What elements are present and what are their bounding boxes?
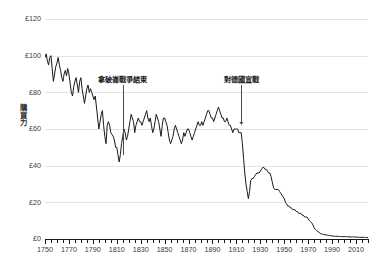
x-tick-label-1990: 1990 xyxy=(324,246,340,253)
x-tick-1965 xyxy=(302,239,303,243)
x-tick-1855 xyxy=(171,239,172,243)
x-tick-1890 xyxy=(212,239,213,244)
x-tick-1790 xyxy=(93,239,94,244)
x-tick-2005 xyxy=(350,239,351,243)
x-tick-label-1890: 1890 xyxy=(204,246,220,253)
x-tick-1875 xyxy=(195,239,196,243)
y-tick-label-0: £0 xyxy=(33,235,41,242)
x-tick-1880 xyxy=(201,239,202,243)
y-axis-title: 購買力 xyxy=(17,104,30,127)
x-tick-1810 xyxy=(117,239,118,244)
x-tick-1960 xyxy=(296,239,297,243)
y-tick-label-20: £20 xyxy=(29,199,41,206)
x-tick-1795 xyxy=(99,239,100,243)
x-tick-1885 xyxy=(207,239,208,243)
x-tick-1820 xyxy=(129,239,130,243)
chart-root: £120£100£80£60£40£20£0 購買力 1750177017901… xyxy=(0,0,382,273)
x-tick-1915 xyxy=(242,239,243,243)
x-tick-label-1930: 1930 xyxy=(252,246,268,253)
x-tick-label-1770: 1770 xyxy=(61,246,77,253)
x-tick-1835 xyxy=(147,239,148,243)
series-line-purchasing-power xyxy=(45,19,368,239)
annotation-arrowhead-1 xyxy=(240,122,244,125)
x-tick-1985 xyxy=(326,239,327,243)
x-tick-1815 xyxy=(123,239,124,243)
annotation-line-0 xyxy=(123,85,124,155)
x-tick-1980 xyxy=(320,239,321,243)
x-tick-1975 xyxy=(314,239,315,243)
x-tick-1850 xyxy=(165,239,166,244)
x-tick-1910 xyxy=(236,239,237,244)
x-tick-label-1850: 1850 xyxy=(157,246,173,253)
y-tick-label-40: £40 xyxy=(29,162,41,169)
x-tick-1920 xyxy=(248,239,249,243)
x-tick-1785 xyxy=(87,239,88,243)
annotation-label-0: 拿破崙戰爭結束 xyxy=(98,76,147,83)
x-tick-2020 xyxy=(368,239,369,243)
annotation-label-1: 對德國宣戰 xyxy=(224,76,259,83)
x-tick-label-1970: 1970 xyxy=(300,246,316,253)
x-tick-1935 xyxy=(266,239,267,243)
x-tick-1990 xyxy=(332,239,333,244)
x-tick-label-1870: 1870 xyxy=(181,246,197,253)
y-tick-label-80: £80 xyxy=(29,89,41,96)
x-tick-1865 xyxy=(183,239,184,243)
x-tick-label-1910: 1910 xyxy=(228,246,244,253)
y-tick-label-60: £60 xyxy=(29,125,41,132)
x-tick-2010 xyxy=(356,239,357,244)
x-tick-1860 xyxy=(177,239,178,243)
x-tick-1805 xyxy=(111,239,112,243)
x-tick-1995 xyxy=(338,239,339,243)
x-tick-2000 xyxy=(344,239,345,243)
x-tick-1945 xyxy=(278,239,279,243)
x-tick-1755 xyxy=(51,239,52,243)
x-tick-1930 xyxy=(260,239,261,244)
x-tick-1775 xyxy=(75,239,76,243)
x-tick-1925 xyxy=(254,239,255,243)
x-tick-1845 xyxy=(159,239,160,243)
x-tick-1830 xyxy=(141,239,142,244)
x-tick-1765 xyxy=(63,239,64,243)
x-tick-label-1810: 1810 xyxy=(109,246,125,253)
annotation-line-1 xyxy=(241,85,242,122)
x-tick-1750 xyxy=(45,239,46,244)
x-tick-1895 xyxy=(218,239,219,243)
x-tick-1940 xyxy=(272,239,273,243)
x-tick-label-1950: 1950 xyxy=(276,246,292,253)
x-tick-1840 xyxy=(153,239,154,243)
x-tick-1970 xyxy=(308,239,309,244)
x-tick-label-1830: 1830 xyxy=(133,246,149,253)
x-tick-1870 xyxy=(189,239,190,244)
x-tick-1905 xyxy=(230,239,231,243)
y-tick-label-100: £100 xyxy=(25,52,41,59)
y-tick-label-120: £120 xyxy=(25,15,41,22)
x-tick-1800 xyxy=(105,239,106,243)
x-tick-label-2010: 2010 xyxy=(348,246,364,253)
x-tick-label-1750: 1750 xyxy=(37,246,53,253)
x-tick-1760 xyxy=(57,239,58,243)
x-tick-label-1790: 1790 xyxy=(85,246,101,253)
x-tick-1770 xyxy=(69,239,70,244)
x-tick-1955 xyxy=(290,239,291,243)
x-tick-1900 xyxy=(224,239,225,243)
x-tick-1780 xyxy=(81,239,82,243)
x-tick-1950 xyxy=(284,239,285,244)
x-tick-2015 xyxy=(362,239,363,243)
x-tick-1825 xyxy=(135,239,136,243)
y-axis-tick-labels: £120£100£80£60£40£20£0 xyxy=(0,0,41,273)
